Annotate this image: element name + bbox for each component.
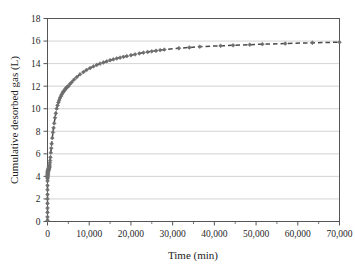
y-tick-label: 10 [31,104,41,114]
x-tick-label: 60,000 [285,229,311,239]
x-tick-label: 70,000 [326,229,352,239]
x-tick-label: 20,000 [118,229,144,239]
y-tick-label: 0 [36,217,41,227]
x-tick-label: 50,000 [243,229,269,239]
chart-plot: 010,00020,00030,00040,00050,00060,00070,… [0,0,355,270]
y-tick-label: 2 [36,194,41,204]
x-tick-label: 0 [45,229,50,239]
y-tick-label: 16 [31,36,41,46]
y-tick-label: 18 [31,14,41,24]
y-tick-label: 14 [31,59,41,69]
x-tick-label: 10,000 [76,229,102,239]
y-tick-label: 12 [31,82,41,92]
x-tick-label: 40,000 [201,229,227,239]
y-tick-label: 4 [36,172,41,182]
x-axis-title: Time (min) [168,249,218,262]
chart-figure: 010,00020,00030,00040,00050,00060,00070,… [0,0,355,270]
y-tick-label: 6 [36,149,41,159]
x-tick-label: 30,000 [160,229,186,239]
y-axis-title: Cumulative desorbed gas (L) [8,56,21,184]
y-tick-label: 8 [36,127,41,137]
